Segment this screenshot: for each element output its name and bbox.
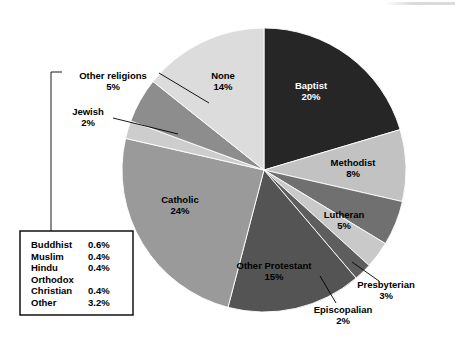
slice-label-value-jewish: 2% <box>81 117 95 128</box>
slice-label-name-methodist: Methodist <box>331 157 377 168</box>
slice-label-name-episcopalian: Episcopalian <box>314 304 373 315</box>
slice-label-name-presbyterian: Presbyterian <box>357 279 415 290</box>
legend-row-name-muslim: Muslim <box>31 251 64 262</box>
legend-row-name-orthodox: Orthodox <box>31 274 74 285</box>
legend-row-value-buddhist: 0.6% <box>88 239 110 250</box>
slice-label-name-baptist: Baptist <box>295 80 328 91</box>
legend-row-value-muslim: 0.4% <box>88 251 110 262</box>
slice-label-value-lutheran: 5% <box>337 220 351 231</box>
slice-label-value-baptist: 20% <box>301 91 321 102</box>
scan-artifact <box>385 2 455 5</box>
slice-label-name-catholic: Catholic <box>161 194 198 205</box>
slice-label-value-episcopalian: 2% <box>336 315 350 326</box>
slice-label-value-methodist: 8% <box>346 168 360 179</box>
slice-label-name-other-protestant: Other Protestant <box>237 260 313 271</box>
slice-label-name-lutheran: Lutheran <box>324 209 365 220</box>
pie-chart-svg: Baptist20%Methodist8%Lutheran5%Other Pro… <box>0 0 457 344</box>
slice-label-value-none: 14% <box>213 81 233 92</box>
bracket-other-religions-to-legend <box>51 72 64 232</box>
legend-row-name-hindu: Hindu <box>31 262 58 273</box>
legend-row-name-christian: Christian <box>31 285 72 296</box>
legend-row-value-other: 3.2% <box>88 297 110 308</box>
slice-label-value-presbyterian: 3% <box>379 290 393 301</box>
slice-label-value-other-protestant: 15% <box>264 271 284 282</box>
pie-chart-figure: Baptist20%Methodist8%Lutheran5%Other Pro… <box>0 0 457 344</box>
slice-label-value-catholic: 24% <box>170 205 190 216</box>
legend-row-value-hindu: 0.4% <box>88 262 110 273</box>
slice-label-value-other-religions: 5% <box>106 81 120 92</box>
legend-row-value-christian: 0.4% <box>88 285 110 296</box>
slice-label-name-none: None <box>211 70 235 81</box>
slice-label-name-jewish: Jewish <box>72 106 104 117</box>
legend-row-name-buddhist: Buddhist <box>31 239 73 250</box>
slice-label-name-other-religions: Other religions <box>79 70 147 81</box>
breakout-legend: Buddhist0.6%Muslim0.4%Hindu0.4%OrthodoxC… <box>20 231 133 315</box>
legend-row-name-other: Other <box>31 297 57 308</box>
